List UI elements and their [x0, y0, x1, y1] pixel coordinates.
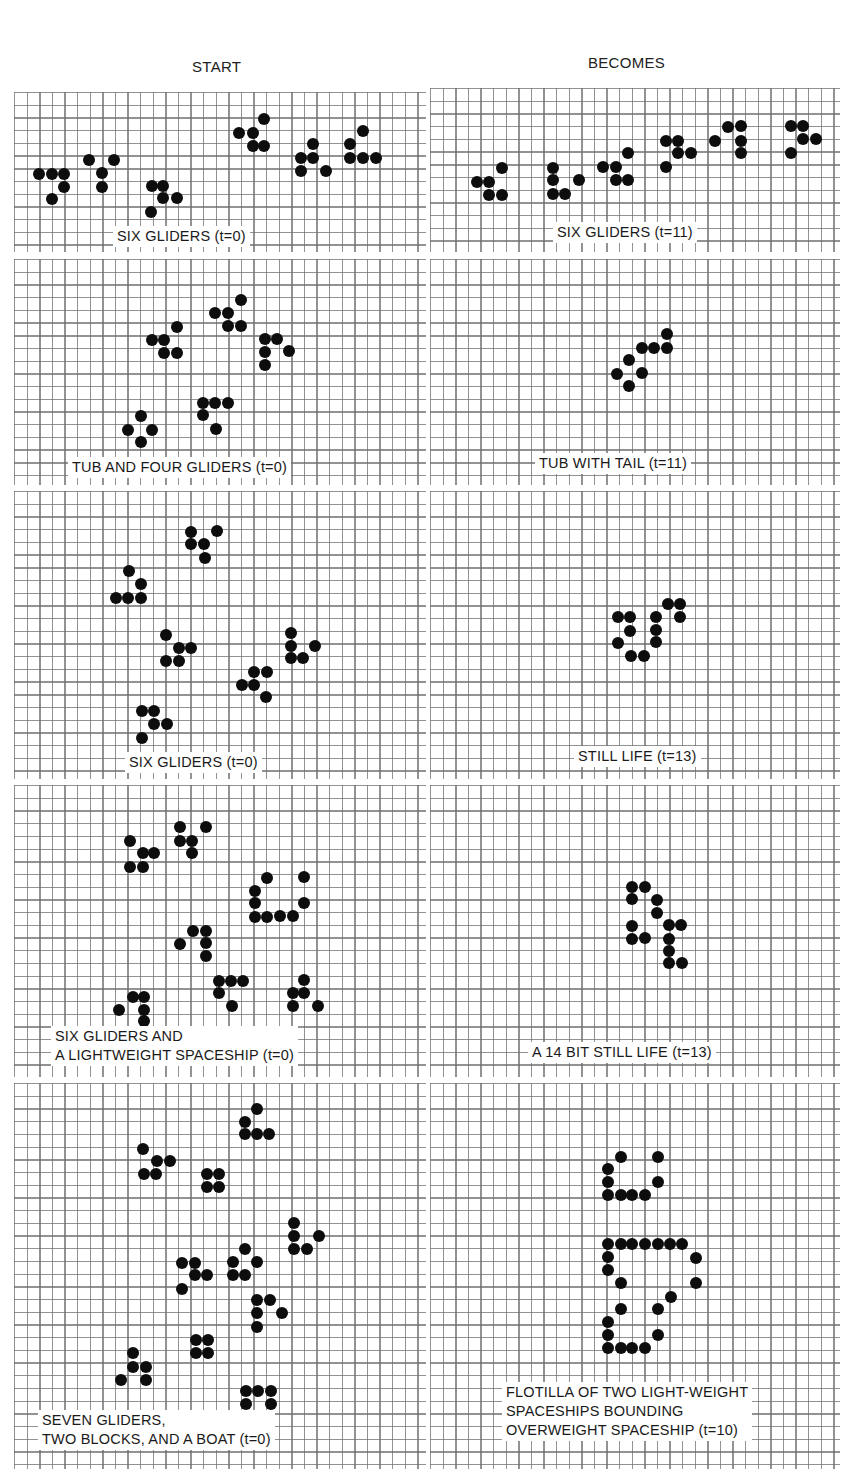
live-cell-dot — [624, 611, 636, 623]
live-cell-dot — [237, 975, 249, 987]
live-cell-dot — [623, 354, 635, 366]
live-cell-dot — [610, 161, 622, 173]
live-cell-dot — [33, 168, 45, 180]
live-cell-dot — [258, 140, 270, 152]
live-cell-dot — [127, 1347, 139, 1359]
panel-caption: SIX GLIDERS (t=0) — [125, 752, 262, 773]
live-cell-dot — [651, 907, 663, 919]
live-cell-dot — [709, 135, 721, 147]
live-cell-dot — [344, 152, 356, 164]
live-cell-dot — [185, 526, 197, 538]
live-cell-dot — [210, 423, 222, 435]
live-cell-dot — [295, 152, 307, 164]
live-cell-dot — [115, 1374, 127, 1386]
live-cell-dot — [638, 650, 650, 662]
live-cell-dot — [236, 679, 248, 691]
live-cell-dot — [496, 189, 508, 201]
live-cell-dot — [639, 1342, 651, 1354]
panel-caption: FLOTILLA OF TWO LIGHT-WEIGHT SPACESHIPS … — [502, 1382, 752, 1441]
live-cell-dot — [274, 910, 286, 922]
live-cell-dot — [122, 592, 134, 604]
live-cell-dot — [639, 1189, 651, 1201]
live-cell-dot — [602, 1342, 614, 1354]
live-cell-dot — [96, 181, 108, 193]
live-cell-dot — [690, 1252, 702, 1264]
live-cell-dot — [222, 320, 234, 332]
panel-caption: STILL LIFE (t=13) — [574, 746, 701, 767]
life-grid-panel-becomes — [430, 259, 840, 485]
live-cell-dot — [652, 1176, 664, 1188]
live-cell-dot — [150, 1168, 162, 1180]
live-cell-dot — [187, 925, 199, 937]
live-cell-dot — [602, 1329, 614, 1341]
live-cell-dot — [722, 121, 734, 133]
live-cell-dot — [276, 1307, 288, 1319]
live-cell-dot — [611, 368, 623, 380]
live-cell-dot — [251, 1321, 263, 1333]
live-cell-dot — [663, 945, 675, 957]
live-cell-dot — [58, 168, 70, 180]
live-cell-dot — [135, 410, 147, 422]
panel-caption: SIX GLIDERS (t=0) — [113, 226, 250, 247]
live-cell-dot — [148, 705, 160, 717]
live-cell-dot — [615, 1151, 627, 1163]
live-cell-dot — [735, 147, 747, 159]
live-cell-dot — [344, 138, 356, 150]
live-cell-dot — [639, 881, 651, 893]
live-cell-dot — [685, 147, 697, 159]
live-cell-dot — [288, 1217, 300, 1229]
live-cell-dot — [652, 1329, 664, 1341]
live-cell-dot — [173, 642, 185, 654]
live-cell-dot — [211, 525, 223, 537]
live-cell-dot — [46, 193, 58, 205]
live-cell-dot — [690, 1277, 702, 1289]
live-cell-dot — [161, 718, 173, 730]
live-cell-dot — [201, 1269, 213, 1281]
live-cell-dot — [113, 1004, 125, 1016]
live-cell-dot — [312, 1000, 324, 1012]
live-cell-dot — [652, 1238, 664, 1250]
panel-caption: SIX GLIDERS AND A LIGHTWEIGHT SPACESHIP … — [51, 1026, 298, 1066]
live-cell-dot — [46, 168, 58, 180]
live-cell-dot — [271, 333, 283, 345]
live-cell-dot — [137, 861, 149, 873]
live-cell-dot — [222, 397, 234, 409]
live-cell-dot — [201, 1181, 213, 1193]
live-cell-dot — [136, 732, 148, 744]
live-cell-dot — [173, 655, 185, 667]
live-cell-dot — [298, 871, 310, 883]
live-cell-dot — [602, 1176, 614, 1188]
live-cell-dot — [200, 950, 212, 962]
live-cell-dot — [674, 598, 686, 610]
live-cell-dot — [124, 861, 136, 873]
live-cell-dot — [370, 152, 382, 164]
live-cell-dot — [186, 847, 198, 859]
live-cell-dot — [201, 1168, 213, 1180]
live-cell-dot — [288, 1243, 300, 1255]
live-cell-dot — [650, 624, 662, 636]
live-cell-dot — [735, 120, 747, 132]
live-cell-dot — [307, 138, 319, 150]
live-cell-dot — [137, 1143, 149, 1155]
live-cell-dot — [287, 910, 299, 922]
live-cell-dot — [164, 1155, 176, 1167]
live-cell-dot — [664, 1238, 676, 1250]
live-cell-dot — [83, 154, 95, 166]
live-cell-dot — [648, 342, 660, 354]
live-cell-dot — [660, 135, 672, 147]
live-cell-dot — [227, 1256, 239, 1268]
live-cell-dot — [307, 152, 319, 164]
live-cell-dot — [136, 705, 148, 717]
live-cell-dot — [200, 821, 212, 833]
live-cell-dot — [251, 1256, 263, 1268]
live-cell-dot — [301, 1243, 313, 1255]
live-cell-dot — [225, 975, 237, 987]
live-cell-dot — [264, 1294, 276, 1306]
live-cell-dot — [171, 321, 183, 333]
live-cell-dot — [233, 127, 245, 139]
live-cell-dot — [573, 174, 585, 186]
live-cell-dot — [110, 592, 122, 604]
live-cell-dot — [248, 679, 260, 691]
live-cell-dot — [652, 1303, 664, 1315]
live-cell-dot — [612, 637, 624, 649]
